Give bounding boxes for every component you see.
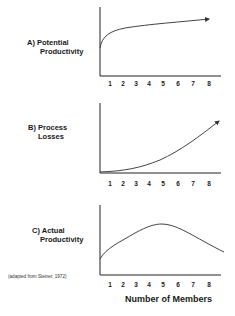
panel-c-label-line1: C) Actual bbox=[32, 226, 65, 235]
tick-label: 8 bbox=[207, 80, 211, 87]
panel-a-label: A) Potential Productivity bbox=[27, 38, 83, 56]
tick-label: 8 bbox=[207, 281, 211, 288]
tick-label: 2 bbox=[121, 180, 125, 187]
tick-label: 1 bbox=[108, 180, 112, 187]
panel-c-label-line2: Productivity bbox=[32, 235, 83, 244]
tick-label: 4 bbox=[147, 80, 151, 87]
tick-label: 3 bbox=[134, 180, 138, 187]
tick-label: 2 bbox=[121, 281, 125, 288]
tick-label: 7 bbox=[191, 281, 195, 288]
panel-b-curve bbox=[100, 121, 219, 172]
tick-label: 6 bbox=[176, 80, 180, 87]
tick-label: 4 bbox=[147, 281, 151, 288]
tick-label: 2 bbox=[121, 80, 125, 87]
panel-b-label-line1: B) Process bbox=[28, 123, 67, 132]
panel-c-curve bbox=[100, 224, 224, 259]
tick-label: 4 bbox=[147, 180, 151, 187]
tick-label: 7 bbox=[191, 80, 195, 87]
panel-b-label: B) Process Losses bbox=[28, 123, 67, 141]
panel-a-label-line1: A) Potential bbox=[27, 38, 69, 47]
panel-a-curve bbox=[100, 19, 209, 48]
source-note: (adapted from Steiner, 1972) bbox=[8, 274, 66, 279]
panel-a-label-line2: Productivity bbox=[27, 47, 83, 56]
tick-label: 3 bbox=[134, 80, 138, 87]
tick-label: 3 bbox=[134, 281, 138, 288]
panel-c-label: C) Actual Productivity bbox=[32, 226, 83, 244]
panel-b-label-line2: Losses bbox=[28, 132, 67, 141]
panel-c-axes bbox=[100, 205, 221, 275]
tick-label: 5 bbox=[161, 281, 165, 288]
tick-label: 1 bbox=[108, 80, 112, 87]
tick-label: 6 bbox=[176, 180, 180, 187]
tick-label: 6 bbox=[176, 281, 180, 288]
panel-a-axes bbox=[100, 7, 221, 76]
x-axis-title: Number of Members bbox=[125, 294, 212, 304]
tick-label: 1 bbox=[108, 281, 112, 288]
tick-label: 5 bbox=[161, 180, 165, 187]
tick-label: 8 bbox=[207, 180, 211, 187]
tick-label: 5 bbox=[161, 80, 165, 87]
panel-b-axes bbox=[100, 103, 221, 173]
tick-label: 7 bbox=[191, 180, 195, 187]
